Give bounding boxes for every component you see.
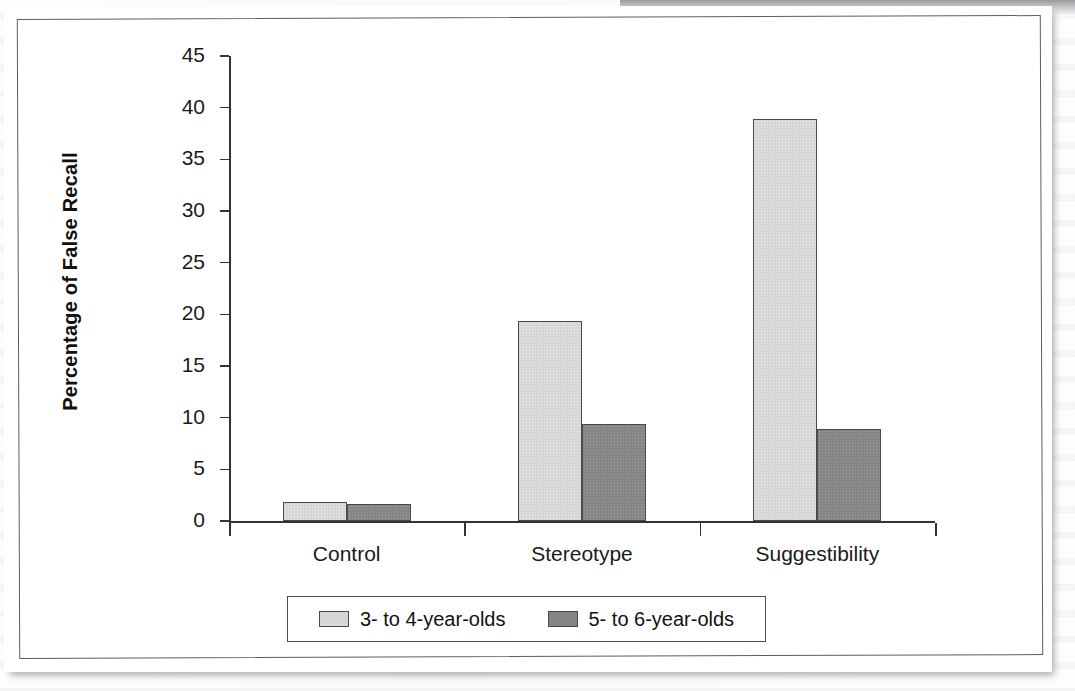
legend-label-1: 5- to 6-year-olds: [589, 608, 735, 631]
legend-swatch-3-to-4-year-olds: [319, 611, 349, 627]
legend-entry-0: 3- to 4-year-olds: [319, 608, 506, 631]
chart-legend: 3- to 4-year-olds 5- to 6-year-olds: [287, 596, 766, 642]
legend-entry-1: 5- to 6-year-olds: [548, 608, 735, 631]
legend-label-0: 3- to 4-year-olds: [360, 608, 506, 631]
figure-card: [4, 6, 1052, 672]
legend-swatch-5-to-6-year-olds: [548, 611, 578, 627]
figure-border-frame: [17, 15, 1043, 659]
